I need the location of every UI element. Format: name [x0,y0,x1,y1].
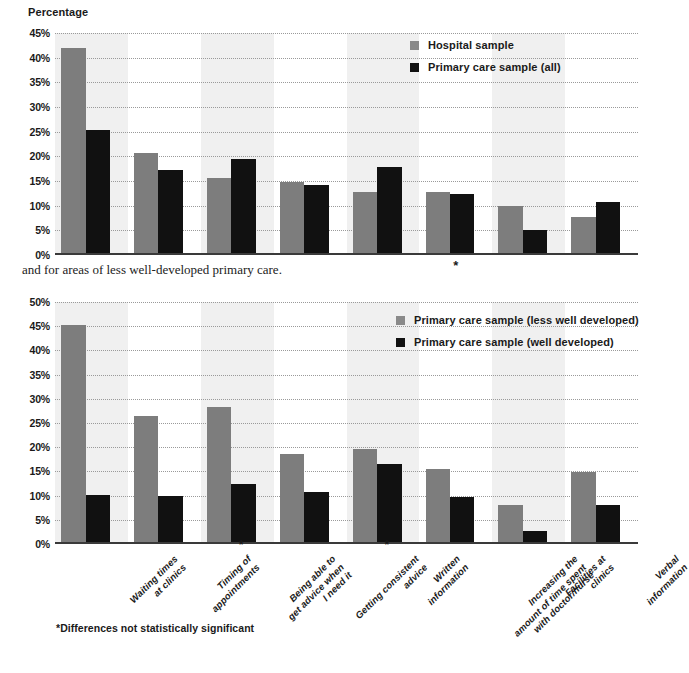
bar-1-5 [450,497,474,544]
bar-1-5 [450,194,474,255]
bar-0-7 [571,472,595,544]
legend-label: Primary care sample (all) [428,61,561,73]
bar-1-7 [596,202,620,255]
x-axis-baseline [55,542,638,544]
bar-0-6 [498,206,522,255]
legend-label: Primary care sample (less well developed… [414,314,639,326]
x-axis-label-1: Timing of appointments [201,553,262,614]
bar-0-5 [426,469,450,544]
bar-0-0 [61,325,85,544]
x-axis-label-0: Waiting times at clinics [128,553,189,614]
bar-1-1 [158,496,182,544]
x-axis-label-4: Written information [417,553,471,607]
significance-asterisk: * [453,259,458,272]
bar-0-5 [426,192,450,255]
y-tick-label: 30% [30,101,50,113]
bar-1-7 [596,505,620,544]
legend-swatch-icon [396,316,405,325]
y-axis-ticks-top: 0%5%10%15%20%25%30%35%40%45% [0,33,50,255]
bar-0-6 [498,505,522,544]
gridline [55,107,638,108]
gridline [55,399,638,400]
bar-0-1 [134,416,158,544]
bar-0-7 [571,217,595,255]
y-tick-label: 35% [30,76,50,88]
bar-1-2 [231,159,255,255]
bar-0-3 [280,182,304,255]
legend-swatch-icon [410,63,419,72]
x-axis-label-7: Verbal information [635,553,689,607]
legend-item: Primary care sample (well developed) [396,336,639,348]
y-tick-label: 20% [30,150,50,162]
footnote-significance: *Differences not statistically significa… [56,622,254,634]
y-tick-label: 15% [30,175,50,187]
y-tick-label: 40% [30,344,50,356]
y-tick-label: 45% [30,320,50,332]
bar-0-4 [353,192,377,255]
y-tick-label: 40% [30,52,50,64]
bar-1-6 [523,230,547,255]
bar-1-3 [304,185,328,255]
bar-0-4 [353,449,377,544]
legend-label: Hospital sample [428,39,514,51]
y-tick-label: 5% [35,224,50,236]
bar-1-3 [304,492,328,544]
legend-item: Primary care sample (all) [410,61,561,73]
bar-0-0 [61,48,85,255]
significance-asterisk: * [239,539,244,551]
legend-top: Hospital sample Primary care sample (all… [410,39,561,83]
y-axis-ticks-bottom: 0%5%10%15%20%25%30%35%40%45%50% [0,302,50,544]
legend-item: Primary care sample (less well developed… [396,314,639,326]
bar-1-4 [377,167,401,255]
bar-0-1 [134,153,158,255]
y-tick-label: 10% [30,490,50,502]
y-tick-label: 20% [30,441,50,453]
y-tick-label: 30% [30,393,50,405]
legend-bottom: Primary care sample (less well developed… [396,314,639,358]
bar-0-2 [207,407,231,544]
gridline [55,302,638,303]
legend-item: Hospital sample [410,39,561,51]
legend-swatch-icon [396,338,405,347]
x-axis-category-labels: Waiting times at clinicsTiming of appoin… [0,549,638,659]
legend-swatch-icon [410,41,419,50]
y-tick-label: 25% [30,126,50,138]
gridline [55,33,638,34]
bar-1-0 [86,130,110,255]
bar-1-2 [231,484,255,544]
bar-0-3 [280,454,304,544]
y-tick-label: 25% [30,417,50,429]
y-tick-label: 5% [35,514,50,526]
bar-0-2 [207,178,231,255]
interstitial-note: and for areas of less well-developed pri… [22,262,282,278]
bar-1-0 [86,495,110,544]
chart-top: 0%5%10%15%20%25%30%35%40%45% Hospital sa… [0,33,638,263]
y-tick-label: 0% [35,249,50,261]
y-tick-label: 50% [30,296,50,308]
y-axis-title: Percentage [28,6,88,18]
significance-asterisk: * [385,539,390,551]
x-axis-label-2: Being able to get advice when I need it [277,553,354,630]
y-tick-label: 10% [30,200,50,212]
y-tick-label: 35% [30,369,50,381]
bar-1-4 [377,464,401,544]
gridline [55,132,638,133]
chart-bottom: 0%5%10%15%20%25%30%35%40%45%50% Primary … [0,302,638,552]
y-tick-label: 15% [30,465,50,477]
bar-1-1 [158,170,182,255]
legend-label: Primary care sample (well developed) [414,336,614,348]
gridline [55,375,638,376]
y-tick-label: 45% [30,27,50,39]
